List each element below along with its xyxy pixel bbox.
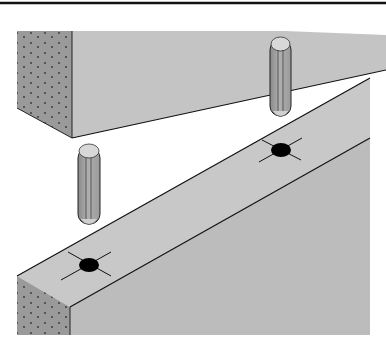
dowel-left xyxy=(78,144,100,225)
dowel-joint-illustration xyxy=(0,0,386,354)
upper-block-end-grain xyxy=(17,31,72,138)
dowel-right xyxy=(270,37,291,117)
